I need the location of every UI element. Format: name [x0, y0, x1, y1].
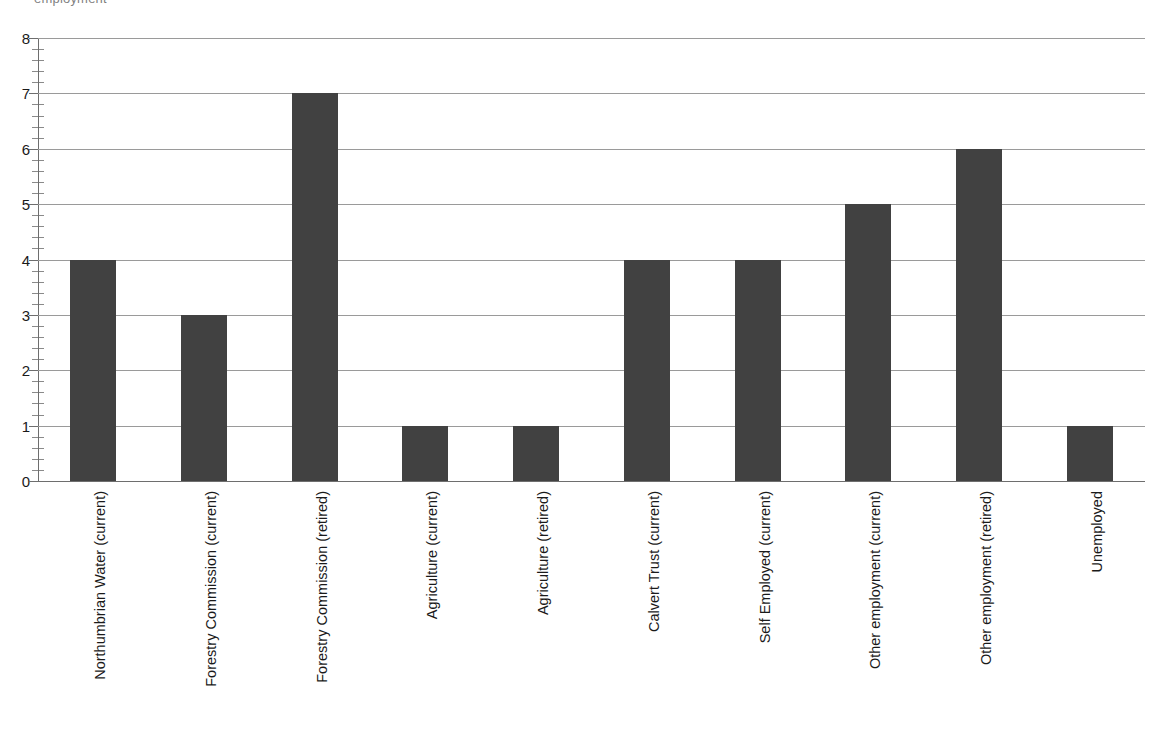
x-label-slot: Forestry Commission (current) [149, 481, 260, 729]
x-axis-label: Other employment (current) [868, 491, 883, 669]
bar [402, 426, 448, 481]
x-axis-label: Agriculture (current) [425, 491, 440, 619]
x-axis-label: Calvert Trust (current) [647, 491, 662, 632]
bar [1067, 426, 1113, 481]
x-label-slot: Agriculture (retired) [481, 481, 592, 729]
x-axis-label: Other employment (retired) [979, 491, 994, 665]
bar [181, 315, 227, 481]
x-axis-label: Forestry Commission (retired) [315, 491, 330, 683]
bar [624, 260, 670, 482]
x-label-slot: Other employment (current) [813, 481, 924, 729]
x-label-slot: Other employment (retired) [924, 481, 1035, 729]
x-axis-label: Self Employed (current) [758, 491, 773, 643]
x-axis-label: Agriculture (retired) [536, 491, 551, 615]
x-label-slot: Forestry Commission (retired) [259, 481, 370, 729]
x-axis-category-labels: Northumbrian Water (current)Forestry Com… [38, 481, 1145, 729]
bar [292, 93, 338, 481]
bar [956, 149, 1002, 481]
bar [845, 204, 891, 481]
x-axis-label: Northumbrian Water (current) [93, 491, 108, 680]
x-axis-label: Unemployed [1090, 491, 1105, 572]
x-label-slot: Calvert Trust (current) [592, 481, 703, 729]
bar [70, 260, 116, 482]
gridline-8 [38, 38, 1145, 39]
x-label-slot: Agriculture (current) [370, 481, 481, 729]
gridline-7 [38, 93, 1145, 94]
bar [735, 260, 781, 482]
x-label-slot: Unemployed [1034, 481, 1145, 729]
bar-chart: 012345678 Northumbrian Water (current)Fo… [0, 0, 1163, 729]
x-axis-label: Forestry Commission (current) [204, 491, 219, 687]
plot-area [38, 38, 1145, 481]
bar [513, 426, 559, 481]
x-label-slot: Self Employed (current) [702, 481, 813, 729]
x-label-slot: Northumbrian Water (current) [38, 481, 149, 729]
